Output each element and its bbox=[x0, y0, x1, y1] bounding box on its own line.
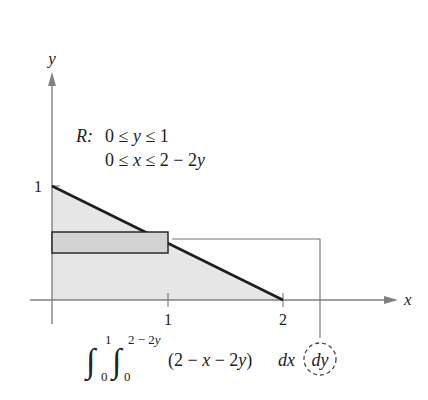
x-tick-label-1: 1 bbox=[164, 311, 172, 328]
outer-upper-limit: 1 bbox=[105, 332, 112, 347]
inner-upper-limit: 2 − 2y bbox=[128, 332, 161, 347]
y-axis-arrow-icon bbox=[48, 72, 56, 86]
inner-lower-limit: 0 bbox=[124, 369, 131, 384]
x-tick-label-2: 2 bbox=[279, 311, 287, 328]
outer-lower-limit: 0 bbox=[101, 369, 108, 384]
double-integral-region-diagram: y x 1 1 2 R: 0 ≤ y ≤ 1 0 ≤ x ≤ 2 − 2y ∫ … bbox=[0, 0, 428, 400]
y-tick-label-1: 1 bbox=[34, 178, 42, 195]
outer-integral-sign-icon: ∫ bbox=[84, 342, 98, 382]
horizontal-strip-dy bbox=[52, 232, 168, 253]
x-axis-arrow-icon bbox=[384, 296, 398, 304]
differential-dy: dy bbox=[312, 350, 329, 370]
y-axis-label: y bbox=[46, 49, 56, 68]
x-axis-label: x bbox=[403, 290, 412, 309]
differential-dx: dx bbox=[278, 350, 295, 370]
region-y-bounds: 0 ≤ y ≤ 1 bbox=[105, 126, 169, 146]
integrand: (2 − x − 2y) bbox=[168, 350, 252, 371]
inner-integral-sign-icon: ∫ bbox=[110, 342, 124, 382]
iterated-integral: ∫ 1 0 ∫ 2 − 2y 0 (2 − x − 2y) dx dy bbox=[84, 332, 336, 384]
region-x-bounds: 0 ≤ x ≤ 2 − 2y bbox=[105, 150, 205, 170]
region-label: R: bbox=[75, 126, 93, 146]
